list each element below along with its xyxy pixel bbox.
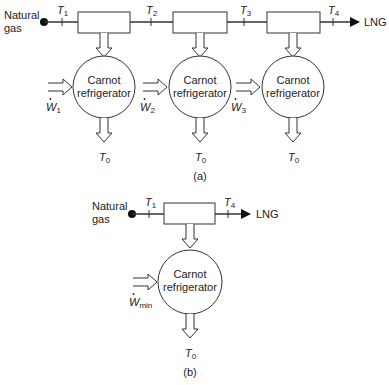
refrigerator-label-line2: refrigerator — [77, 87, 131, 99]
outlet-arrowhead-icon — [241, 209, 251, 219]
temp-label-t2: T2 — [146, 4, 158, 18]
refrigerator-label-line2: refrigerator — [173, 87, 227, 99]
lng-label: LNG — [256, 208, 279, 220]
work-in-arrow-icon — [48, 79, 72, 95]
refrigerator-label-line2: refrigerator — [266, 87, 320, 99]
heat-in-arrow-icon — [96, 33, 112, 57]
temp-label-t1: T1 — [145, 196, 157, 210]
temp-label-t3: T3 — [240, 4, 252, 18]
temp-label-t1: T1 — [57, 4, 69, 18]
caption-a: (a) — [193, 170, 206, 182]
heat-exchanger-1 — [78, 12, 130, 33]
heat-exchanger-2 — [173, 12, 227, 33]
dot-accent-icon — [235, 98, 237, 100]
work-label-wmin: Wmin — [129, 296, 152, 310]
heat-reject-arrow-icon — [96, 118, 112, 142]
heat-in-arrow-icon — [192, 33, 208, 57]
refrigerator-label-line2: refrigerator — [163, 281, 217, 293]
work-label-w2: W2 — [140, 101, 155, 115]
dot-accent-icon — [50, 98, 52, 100]
reject-temp-label: T0 — [288, 151, 300, 165]
heat-exchanger — [164, 203, 215, 224]
caption-b: (b) — [183, 366, 196, 378]
outlet-arrowhead-icon — [350, 17, 360, 27]
heat-reject-arrow-icon — [182, 314, 198, 338]
lng-label: LNG — [364, 16, 387, 28]
heat-in-arrow-icon — [285, 33, 301, 57]
work-in-arrow-icon — [133, 274, 157, 290]
refrigerator-single: Carnot refrigerator Wmin T0 — [129, 224, 222, 361]
heat-reject-arrow-icon — [285, 118, 301, 142]
dot-accent-icon — [144, 98, 146, 100]
temp-label-t4: T4 — [224, 196, 236, 210]
refrigerator-2: Carnot refrigerator W2 T0 — [140, 33, 231, 165]
refrigerator-label-line1: Carnot — [183, 74, 216, 86]
panel-b: Natural gas LNG T1 T4 Carnot refrigerato… — [92, 196, 279, 378]
panel-a: Natural gas LNG T1 T2 T3 T4 Carnot refri… — [4, 4, 387, 182]
work-label-w1: W1 — [46, 101, 61, 115]
natural-gas-label-line1: Natural — [92, 200, 127, 212]
work-label-w3: W3 — [231, 101, 246, 115]
natural-gas-label-line2: gas — [4, 22, 22, 34]
reject-temp-label: T0 — [185, 347, 197, 361]
heat-reject-arrow-icon — [192, 118, 208, 142]
heat-in-arrow-icon — [182, 224, 198, 248]
refrigerator-label-line1: Carnot — [173, 268, 206, 280]
lng-carnot-diagram: Natural gas LNG T1 T2 T3 T4 Carnot refri… — [0, 0, 389, 385]
natural-gas-label-line1: Natural — [4, 9, 39, 21]
work-in-arrow-icon — [143, 79, 167, 95]
natural-gas-label-line2: gas — [92, 213, 110, 225]
heat-exchanger-3 — [267, 12, 320, 33]
dot-accent-icon — [133, 293, 135, 295]
refrigerator-1: Carnot refrigerator W1 T0 — [46, 33, 135, 165]
refrigerator-label-line1: Carnot — [87, 74, 120, 86]
work-in-arrow-icon — [236, 79, 260, 95]
refrigerator-label-line1: Carnot — [276, 74, 309, 86]
temp-label-t4: T4 — [328, 4, 340, 18]
reject-temp-label: T0 — [195, 151, 207, 165]
reject-temp-label: T0 — [99, 151, 111, 165]
refrigerator-3: Carnot refrigerator W3 T0 — [231, 33, 324, 165]
